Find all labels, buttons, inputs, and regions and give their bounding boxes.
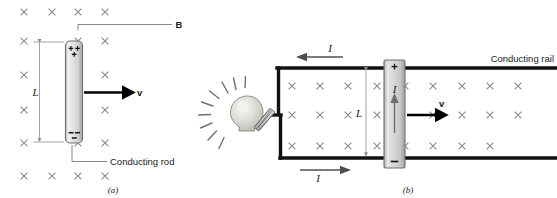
- current-label-top: I: [327, 42, 333, 54]
- panel-b: I I L I: [199, 42, 557, 195]
- current-label-bottom: I: [315, 172, 321, 184]
- rod-label-a: Conducting rod: [110, 156, 174, 167]
- rail-label: Conducting rail: [491, 53, 554, 64]
- figure-canvas: B L: [0, 0, 557, 198]
- length-label-a: L: [31, 86, 38, 98]
- conducting-rod-b: [384, 60, 405, 168]
- bulb-highlight: [238, 101, 249, 114]
- panel-a: B L: [21, 9, 183, 195]
- velocity-label-a: v: [137, 87, 143, 98]
- panel-caption-a: (a): [108, 185, 119, 195]
- velocity-label-b: v: [439, 98, 445, 109]
- physics-figure: B L: [0, 0, 557, 198]
- length-label-b: L: [355, 107, 362, 119]
- rod-label-leader-a: [72, 145, 107, 162]
- panel-caption-b: (b): [403, 185, 414, 195]
- field-label-b: B: [176, 19, 183, 30]
- light-bulb: [199, 77, 276, 149]
- conducting-rod-a: [66, 41, 83, 143]
- field-label-leader-a: [78, 25, 172, 31]
- circuit-rails: [270, 68, 557, 158]
